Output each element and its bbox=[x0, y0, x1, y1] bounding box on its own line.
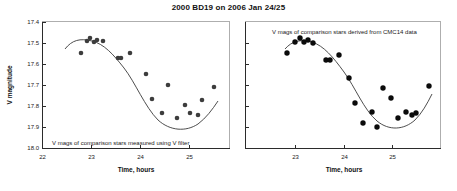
right-xtick-label-2: 25 bbox=[389, 154, 396, 160]
left-xtick-label-1: 23 bbox=[88, 154, 95, 160]
right-panel: 23 24 25 Time, hours V mags of compariso… bbox=[246, 22, 441, 175]
left-panel: 17.4 17.5 17.6 17.7 17.8 17.9 18.0 V mag… bbox=[6, 19, 230, 174]
right-x-axis-title: Time, hours bbox=[326, 166, 363, 174]
left-ytick-label-1: 17.5 bbox=[27, 40, 39, 46]
left-x-axis-title: Time, hours bbox=[118, 166, 155, 174]
left-fit-curve bbox=[65, 40, 218, 130]
left-ytick-label-2: 17.6 bbox=[27, 61, 39, 67]
right-xtick-label-1: 24 bbox=[341, 154, 348, 160]
figure-container: 2000 BD19 on 2006 Jan 24/25 17.4 17.5 bbox=[0, 0, 457, 191]
right-data-points bbox=[284, 35, 431, 129]
left-ytick-label-0: 17.4 bbox=[27, 19, 39, 25]
left-panel-caption: V mags of comparison stars measured usin… bbox=[52, 140, 189, 146]
left-ytick-label-4: 17.8 bbox=[27, 103, 39, 109]
left-ytick-label-5: 17.9 bbox=[27, 124, 39, 130]
plot-canvas: 17.4 17.5 17.6 17.7 17.8 17.9 18.0 V mag… bbox=[0, 0, 457, 191]
left-data-points bbox=[79, 36, 217, 121]
left-xtick-label-2: 24 bbox=[137, 154, 144, 160]
right-panel-caption: V mags of comparison stars derived from … bbox=[272, 29, 417, 35]
right-panel-frame bbox=[246, 22, 441, 149]
left-xtick-label-0: 22 bbox=[39, 154, 46, 160]
left-xtick-label-3: 25 bbox=[186, 154, 193, 160]
left-y-axis-title: V magnitude bbox=[6, 65, 14, 104]
left-ytick-label-6: 18.0 bbox=[27, 145, 39, 151]
right-xtick-label-0: 23 bbox=[292, 154, 299, 160]
left-panel-frame bbox=[43, 22, 230, 149]
left-ytick-label-3: 17.7 bbox=[27, 82, 39, 88]
